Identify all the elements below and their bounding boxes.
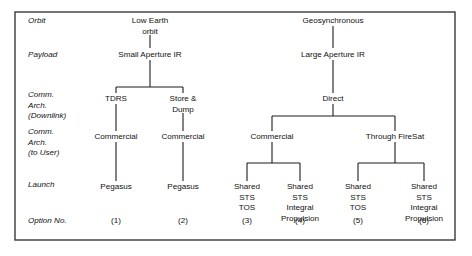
option-tree-diagram: OrbitPayloadComm.Arch.(Downlink)Comm.Arc… bbox=[0, 0, 472, 256]
text-line: TDRS bbox=[105, 94, 128, 103]
node-pegasus-1: Pegasus bbox=[100, 182, 132, 191]
text-line: Integral bbox=[411, 203, 438, 212]
text-line: Geosynchronous bbox=[302, 16, 363, 25]
text-line: Shared bbox=[234, 182, 260, 191]
text-line: Small Aperture IR bbox=[118, 50, 182, 59]
text-line: Arch. bbox=[27, 138, 47, 147]
text-line: TOS bbox=[239, 203, 256, 212]
option-2: (2) bbox=[178, 216, 188, 225]
row-label-orbit: Orbit bbox=[28, 16, 46, 25]
text-line: Dump bbox=[172, 105, 194, 114]
option-6: (6) bbox=[419, 216, 429, 225]
node-low-earth-orbit: Low Earthorbit bbox=[132, 16, 168, 36]
text-line: Comm. bbox=[28, 127, 54, 136]
diagram-border bbox=[15, 12, 455, 240]
option-numbers: (1)(2)(3)(4)(5)(6) bbox=[111, 216, 429, 225]
text-line: Payload bbox=[28, 50, 58, 59]
text-line: Shared bbox=[287, 182, 313, 191]
text-line: Commercial bbox=[250, 132, 293, 141]
option-4: (4) bbox=[295, 216, 305, 225]
text-line: Large Aperture IR bbox=[301, 50, 365, 59]
text-line: Direct bbox=[322, 94, 344, 103]
text-line: (Downlink) bbox=[28, 111, 67, 120]
text-line: Orbit bbox=[28, 16, 46, 25]
text-line: TOS bbox=[350, 203, 367, 212]
option-3: (3) bbox=[242, 216, 252, 225]
text-line: STS bbox=[239, 193, 255, 202]
text-line: Through FireSat bbox=[366, 132, 425, 141]
row-label-payload: Payload bbox=[28, 50, 58, 59]
text-line: Option No. bbox=[28, 216, 67, 225]
node-store-and-dump: Store &Dump bbox=[170, 94, 198, 114]
node-small-aperture-ir: Small Aperture IR bbox=[118, 50, 182, 59]
text-line: Commercial bbox=[94, 132, 137, 141]
text-line: STS bbox=[350, 193, 366, 202]
node-shared-sts-tos-3: SharedSTSTOS bbox=[234, 182, 260, 212]
text-line: STS bbox=[416, 193, 432, 202]
row-label-launch: Launch bbox=[28, 180, 55, 189]
row-label-column: OrbitPayloadComm.Arch.(Downlink)Comm.Arc… bbox=[27, 16, 67, 225]
node-through-firesat: Through FireSat bbox=[366, 132, 425, 141]
text-line: Pegasus bbox=[167, 182, 199, 191]
node-tdrs: TDRS bbox=[105, 94, 128, 103]
text-line: Low Earth bbox=[132, 16, 168, 25]
node-direct: Direct bbox=[322, 94, 344, 103]
node-commercial-1: Commercial bbox=[94, 132, 137, 141]
node-commercial-2: Commercial bbox=[161, 132, 204, 141]
text-line: Integral bbox=[287, 203, 314, 212]
text-line: Comm. bbox=[28, 90, 54, 99]
node-large-aperture-ir: Large Aperture IR bbox=[301, 50, 365, 59]
node-labels: Low EarthorbitGeosynchronousSmall Apertu… bbox=[94, 16, 443, 223]
text-line: Store & bbox=[170, 94, 198, 103]
text-line: Arch. bbox=[27, 101, 47, 110]
text-line: orbit bbox=[142, 27, 158, 36]
node-shared-sts-tos-5: SharedSTSTOS bbox=[345, 182, 371, 212]
text-line: (to User) bbox=[28, 148, 60, 157]
option-5: (5) bbox=[353, 216, 363, 225]
node-geosynchronous: Geosynchronous bbox=[302, 16, 363, 25]
node-commercial-3: Commercial bbox=[250, 132, 293, 141]
figure-canvas: OrbitPayloadComm.Arch.(Downlink)Comm.Arc… bbox=[0, 0, 472, 256]
text-line: STS bbox=[292, 193, 308, 202]
row-label-option-no: Option No. bbox=[28, 216, 67, 225]
option-1: (1) bbox=[111, 216, 121, 225]
text-line: Shared bbox=[411, 182, 437, 191]
text-line: Commercial bbox=[161, 132, 204, 141]
text-line: Shared bbox=[345, 182, 371, 191]
node-pegasus-2: Pegasus bbox=[167, 182, 199, 191]
text-line: Pegasus bbox=[100, 182, 132, 191]
row-label-comm-arch-to-user: Comm.Arch.(to User) bbox=[27, 127, 60, 157]
row-label-comm-arch-downlink: Comm.Arch.(Downlink) bbox=[27, 90, 67, 120]
text-line: Launch bbox=[28, 180, 55, 189]
